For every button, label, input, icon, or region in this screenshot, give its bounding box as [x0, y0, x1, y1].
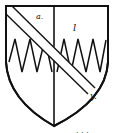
bend	[6, 6, 95, 94]
label-top-left: a.	[36, 12, 43, 21]
label-bend-end: y.	[89, 91, 97, 101]
footer-marks: . . .	[76, 126, 89, 133]
label-top-right: l	[73, 22, 76, 33]
shield-diagram: a. l y. . . .	[0, 0, 114, 133]
